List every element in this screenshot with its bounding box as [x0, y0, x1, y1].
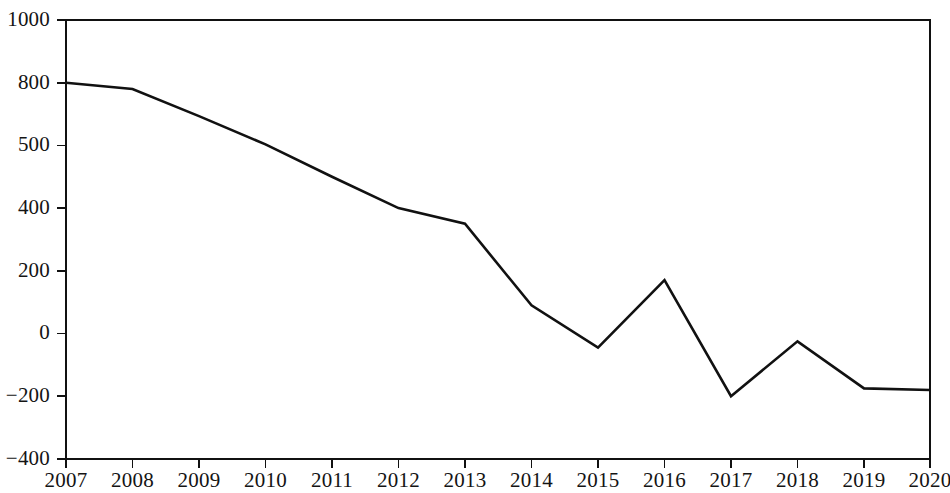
- chart-canvas: 10008005004002000−200−400 20072008200920…: [0, 0, 950, 493]
- x-axis-tick-label: 2008: [111, 468, 154, 492]
- y-axis-tick-label: −400: [6, 446, 50, 470]
- x-axis-tick-label: 2020: [909, 468, 950, 492]
- chart-background: [0, 0, 950, 493]
- y-axis-tick-label: 500: [18, 132, 50, 156]
- x-axis-tick-label: 2016: [643, 468, 686, 492]
- y-axis-tick-label: 400: [18, 195, 50, 219]
- x-axis-tick-label: 2019: [843, 468, 886, 492]
- y-axis-tick-label: −200: [6, 383, 50, 407]
- x-axis-tick-label: 2010: [244, 468, 287, 492]
- x-axis-tick-label: 2015: [577, 468, 620, 492]
- x-axis-tick-label: 2012: [377, 468, 420, 492]
- y-axis-tick-label: 800: [18, 70, 50, 94]
- x-axis-tick-label: 2018: [776, 468, 819, 492]
- x-axis-tick-label: 2017: [710, 468, 753, 492]
- line-chart-figure: 10008005004002000−200−400 20072008200920…: [0, 0, 950, 493]
- y-axis-tick-label: 200: [18, 258, 50, 282]
- y-axis-tick-label: 0: [39, 320, 50, 344]
- x-axis-tick-label: 2009: [178, 468, 221, 492]
- x-axis-tick-label: 2013: [444, 468, 487, 492]
- x-axis-tick-label: 2007: [45, 468, 88, 492]
- x-axis-tick-label: 2011: [311, 468, 353, 492]
- x-axis-tick-label: 2014: [510, 468, 553, 492]
- y-axis-tick-label: 1000: [7, 7, 50, 31]
